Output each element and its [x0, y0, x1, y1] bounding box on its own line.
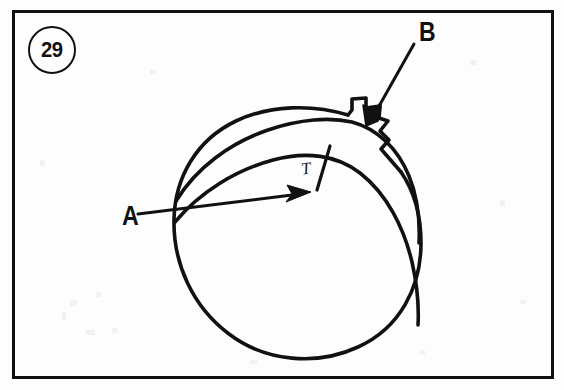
figure-page: 29 A B T	[0, 0, 564, 390]
leader-line-a	[138, 185, 311, 214]
band-tick	[317, 146, 330, 190]
seam-band-lower	[175, 155, 418, 325]
figure-number-badge: 29	[28, 26, 76, 74]
figure-artwork	[0, 0, 564, 390]
callout-label-b: B	[419, 18, 435, 46]
figure-frame: 29 A B T	[0, 0, 564, 390]
leader-line-b	[363, 44, 414, 126]
arrowhead-a	[286, 185, 311, 202]
figure-border	[14, 12, 553, 378]
callout-label-a: A	[122, 203, 138, 230]
figure-number-text: 29	[41, 37, 63, 63]
